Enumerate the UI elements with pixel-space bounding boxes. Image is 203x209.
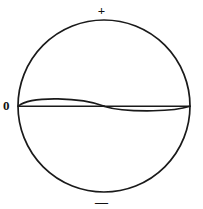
polarity-label-negative: — bbox=[0, 195, 203, 208]
figure-root: + — 0 bbox=[0, 0, 203, 209]
circle-diagram-svg bbox=[0, 0, 203, 209]
polarity-label-positive: + bbox=[0, 4, 203, 17]
origin-label-zero: 0 bbox=[3, 99, 10, 112]
upper-lobe-curve bbox=[19, 99, 105, 106]
